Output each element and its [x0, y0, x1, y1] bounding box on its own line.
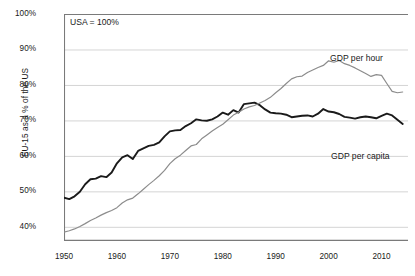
x-tick-1950: 1950 — [42, 252, 86, 261]
annotation-usa-equals-100: USA = 100% — [70, 17, 119, 27]
y-tick-40: 40% — [2, 222, 36, 231]
y-tick-50: 50% — [2, 186, 36, 195]
gdp-comparison-chart: EU-15 as a % of the US 40%50%60%70%80%90… — [0, 0, 415, 276]
gridlines — [64, 15, 408, 228]
x-tick-1960: 1960 — [95, 252, 139, 261]
y-tick-90: 90% — [2, 44, 36, 53]
y-tick-100: 100% — [2, 9, 36, 18]
x-tick-2000: 2000 — [307, 252, 351, 261]
x-tick-1970: 1970 — [148, 252, 192, 261]
plot-area — [64, 14, 408, 241]
y-tick-80: 80% — [2, 80, 36, 89]
chart-canvas — [64, 14, 408, 241]
x-tick-1990: 1990 — [254, 252, 298, 261]
y-axis-tick-labels: 40%50%60%70%80%90%100% — [2, 0, 36, 276]
series-line-gdp-per-hour — [64, 60, 403, 232]
series-label-gdp-per-hour: GDP per hour — [330, 53, 383, 63]
x-tick-2010: 2010 — [360, 252, 404, 261]
y-tick-60: 60% — [2, 151, 36, 160]
x-tick-1980: 1980 — [201, 252, 245, 261]
y-tick-70: 70% — [2, 115, 36, 124]
series-label-gdp-per-capita: GDP per capita — [331, 151, 390, 161]
